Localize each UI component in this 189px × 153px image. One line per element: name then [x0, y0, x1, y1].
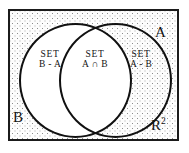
universe-label: R2: [151, 118, 166, 133]
set-b-label: B: [13, 110, 23, 125]
universe-label-base: R: [151, 117, 161, 133]
region-label-a-minus-b-line2: A - B: [113, 59, 169, 69]
region-label-a-minus-b-line1: SET: [113, 49, 169, 59]
venn-diagram-figure: SET B - A SET A ∩ B SET A - B A B R2: [0, 0, 189, 153]
region-label-a-minus-b: SET A - B: [113, 49, 169, 70]
universe-label-exponent: 2: [161, 116, 166, 126]
set-a-label: A: [155, 25, 166, 40]
